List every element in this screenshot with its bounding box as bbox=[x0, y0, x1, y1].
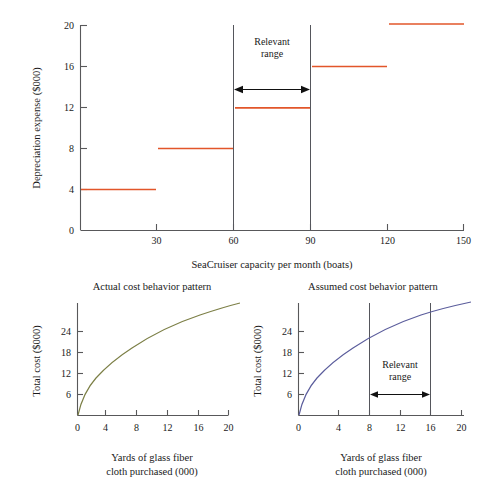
assumed-cost-chart-title: Assumed cost behavior pattern bbox=[308, 281, 439, 292]
actual-cost-x-tick-0: 0 bbox=[75, 422, 80, 433]
assumed-cost-y-tick-12: 12 bbox=[282, 368, 292, 379]
assumed-cost-x-tick-0: 0 bbox=[296, 422, 301, 433]
assumed-relevant-range-arrowhead-left bbox=[370, 391, 378, 398]
step-chart-x-tick-150: 150 bbox=[456, 235, 471, 246]
actual-cost-y-tick-6: 6 bbox=[66, 389, 71, 400]
assumed-cost-x-tick-8: 8 bbox=[367, 422, 372, 433]
step-chart-y-tick-12: 12 bbox=[64, 102, 74, 113]
assumed-cost-chart-y-axis-title: Total cost ($000) bbox=[252, 325, 264, 397]
assumed-cost-chart-y-ticks bbox=[299, 332, 305, 395]
assumed-relevant-range-label-line2: range bbox=[389, 371, 412, 382]
step-chart-y-tick-16: 16 bbox=[64, 61, 74, 72]
assumed-cost-chart-x-ticks bbox=[339, 410, 462, 416]
relevant-range-label-line1: Relevant bbox=[254, 36, 290, 47]
step-chart-y-ticks bbox=[81, 26, 88, 190]
step-chart-y-tick-8: 8 bbox=[69, 143, 74, 154]
actual-cost-chart: Actual cost behavior pattern 24 18 12 6 … bbox=[0, 275, 250, 494]
assumed-cost-x-tick-12: 12 bbox=[396, 422, 406, 433]
actual-cost-chart-x-ticks bbox=[106, 410, 229, 416]
assumed-relevant-range-arrowhead-right bbox=[422, 391, 430, 398]
actual-cost-chart-x-axis-title-line2: cloth purchased (000) bbox=[106, 466, 198, 478]
assumed-cost-x-tick-4: 4 bbox=[336, 422, 341, 433]
assumed-cost-chart-x-axis-title-line2: cloth purchased (000) bbox=[335, 466, 427, 478]
actual-cost-chart-title: Actual cost behavior pattern bbox=[93, 281, 212, 292]
actual-cost-chart-y-axis-title: Total cost ($000) bbox=[31, 325, 43, 397]
assumed-relevant-range-label-line1: Relevant bbox=[382, 359, 418, 370]
figure-container: 20 16 12 8 4 0 30 60 90 120 150 bbox=[0, 0, 493, 494]
step-chart-y-tick-0: 0 bbox=[69, 225, 74, 236]
actual-cost-x-tick-8: 8 bbox=[134, 422, 139, 433]
assumed-cost-x-tick-16: 16 bbox=[426, 422, 436, 433]
step-chart-relevant-range-annotation: Relevant range bbox=[234, 36, 310, 93]
assumed-cost-y-tick-24: 24 bbox=[282, 326, 292, 337]
step-chart-x-axis-title: SeaCruiser capacity per month (boats) bbox=[192, 259, 353, 271]
step-chart-y-tick-labels: 20 16 12 8 4 0 bbox=[64, 20, 74, 236]
actual-cost-chart-x-tick-labels: 0 4 8 12 16 20 bbox=[75, 422, 234, 433]
step-chart-x-tick-labels: 30 60 90 120 150 bbox=[152, 235, 472, 246]
actual-cost-x-tick-16: 16 bbox=[194, 422, 204, 433]
actual-cost-x-tick-4: 4 bbox=[103, 422, 108, 433]
assumed-cost-y-tick-18: 18 bbox=[282, 347, 292, 358]
step-chart-y-tick-20: 20 bbox=[64, 20, 74, 31]
actual-cost-x-tick-12: 12 bbox=[163, 422, 173, 433]
assumed-cost-relevant-range-annotation: Relevant range bbox=[370, 359, 430, 398]
assumed-cost-x-tick-20: 20 bbox=[457, 422, 467, 433]
step-chart-x-tick-90: 90 bbox=[306, 235, 316, 246]
assumed-cost-y-tick-6: 6 bbox=[287, 389, 292, 400]
actual-cost-chart-y-tick-labels: 24 18 12 6 bbox=[61, 326, 71, 400]
actual-cost-chart-y-ticks bbox=[78, 332, 84, 395]
actual-cost-chart-x-axis-title-line1: Yards of glass fiber bbox=[111, 452, 193, 463]
actual-cost-y-tick-24: 24 bbox=[61, 326, 71, 337]
relevant-range-arrowhead-left bbox=[234, 86, 243, 93]
actual-cost-y-tick-12: 12 bbox=[61, 368, 71, 379]
actual-cost-y-tick-18: 18 bbox=[61, 347, 71, 358]
step-chart-y-axis-title: Depreciation expense ($000) bbox=[31, 67, 43, 189]
assumed-cost-chart: Assumed cost behavior pattern 24 18 12 6… bbox=[221, 275, 493, 494]
assumed-cost-chart-x-tick-labels: 0 4 8 12 16 20 bbox=[296, 422, 467, 433]
step-chart-y-tick-4: 4 bbox=[69, 184, 74, 195]
step-chart-x-tick-30: 30 bbox=[152, 235, 162, 246]
step-chart-x-tick-120: 120 bbox=[380, 235, 395, 246]
assumed-cost-chart-y-tick-labels: 24 18 12 6 bbox=[282, 326, 292, 400]
relevant-range-label-line2: range bbox=[261, 48, 284, 59]
step-chart-x-tick-60: 60 bbox=[229, 235, 239, 246]
step-chart: 20 16 12 8 4 0 30 60 90 120 150 bbox=[0, 0, 493, 275]
actual-cost-curve bbox=[78, 303, 240, 415]
assumed-cost-chart-x-axis-title-line1: Yards of glass fiber bbox=[340, 452, 422, 463]
relevant-range-arrowhead-right bbox=[301, 86, 310, 93]
